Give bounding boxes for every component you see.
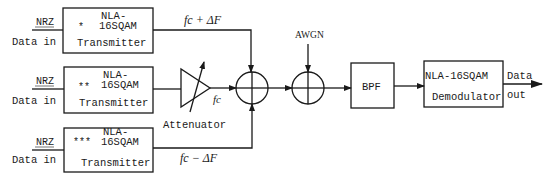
transmitter-marker-3: *** [73,137,91,148]
output-label-line1: Data [507,70,532,82]
output-label-line2: out [507,89,526,101]
upper-frequency-label: fc + ΔF [184,13,222,27]
transmitter-line2-1: 16SQAM [99,20,137,32]
transmitter-line3-2: Transmitter [79,97,148,109]
lower-frequency-label: fc − ΔF [180,151,218,165]
transmitter-marker-2: ** [78,82,90,93]
transmitter-line3-1: Transmitter [77,37,146,49]
input-signal-label-2: NRZ [36,76,54,87]
input-signal-label-1: NRZ [36,17,54,28]
demodulator-line2: Demodulator [432,91,501,103]
input-data-label-3: Data in [12,154,56,166]
transmitter-line2-3: 16SQAM [101,136,139,148]
bpf-label: BPF [362,81,381,93]
attenuator-label: Attenuator [163,119,226,131]
middle-frequency-label: fc [213,93,221,105]
awgn-label: AWGN [295,30,324,40]
input-signal-label-3: NRZ [36,137,54,148]
input-data-label-1: Data in [12,36,56,48]
attenuator-triangle [181,69,210,107]
transmitter-marker-1: * [78,22,84,33]
demodulator-line1: NLA-16SQAM [425,70,488,82]
input-data-label-2: Data in [12,95,56,107]
transmitter-line2-2: 16SQAM [101,79,139,91]
block-diagram: NRZ Data in NRZ Data in NRZ Data in * NL… [0,0,556,180]
transmitter-line3-3: Transmitter [81,157,150,169]
attenuator-variable-arrow [190,62,204,112]
upper-path-line [153,30,251,72]
